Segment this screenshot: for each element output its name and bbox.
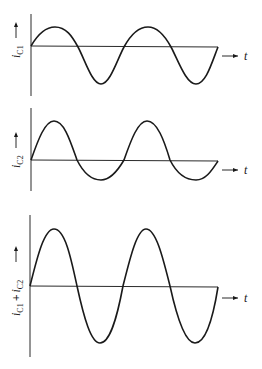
svg-text:iC1: iC1 (9, 45, 25, 58)
waveform-diagram: t iC1 t iC2 t iC1+iC2 (0, 0, 262, 369)
x-label: t (244, 163, 248, 177)
arrow-up-icon (14, 22, 18, 27)
waveform-ic1 (31, 27, 218, 84)
arrow-head-icon (233, 168, 238, 172)
x-label: t (244, 291, 248, 305)
arrow-head-icon (233, 54, 238, 58)
arrow-head-icon (233, 296, 238, 300)
arrow-up-icon (14, 132, 18, 137)
y-label-ic1: iC1 (9, 22, 25, 58)
x-label: t (244, 49, 248, 63)
zero-line (30, 286, 218, 287)
waveform-ic2 (31, 121, 218, 180)
y-label-ic2: iC2 (9, 132, 25, 168)
y-label-sum: iC1+iC2 (9, 246, 25, 316)
arrow-up-icon (14, 246, 18, 251)
svg-text:iC2: iC2 (9, 155, 25, 168)
panel-ic2: t iC2 (9, 108, 248, 191)
panel-ic1: t iC1 (9, 14, 248, 96)
svg-text:iC1+iC2: iC1+iC2 (9, 280, 25, 316)
panel-sum: t iC1+iC2 (9, 215, 248, 357)
